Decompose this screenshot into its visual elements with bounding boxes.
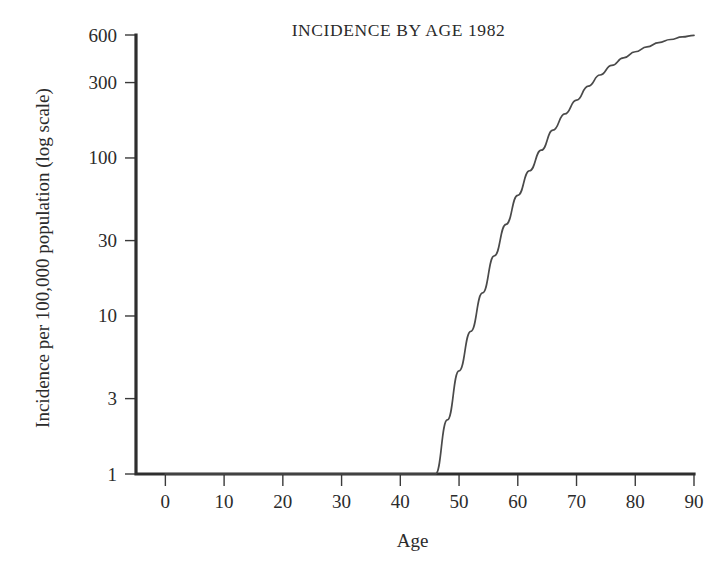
x-tick-label: 20 [273, 491, 292, 512]
x-tick-label: 90 [685, 491, 704, 512]
y-tick-label: 600 [89, 25, 118, 46]
chart-figure: INCIDENCE BY AGE 1982 Incidence per 100,… [0, 0, 725, 579]
x-tick-label: 70 [567, 491, 586, 512]
x-tick-marks [165, 474, 694, 486]
incidence-curve [165, 35, 694, 474]
x-tick-label: 0 [161, 491, 171, 512]
x-tick-labels: 0102030405060708090 [161, 491, 704, 512]
x-tick-label: 10 [215, 491, 234, 512]
x-tick-label: 50 [450, 491, 469, 512]
y-tick-marks [125, 35, 136, 474]
y-tick-label: 3 [108, 388, 118, 409]
x-tick-label: 60 [508, 491, 527, 512]
y-tick-label: 10 [98, 305, 117, 326]
y-tick-label: 1 [108, 464, 118, 485]
y-tick-label: 100 [89, 147, 118, 168]
x-tick-label: 80 [626, 491, 645, 512]
y-tick-labels: 131030100300600 [89, 25, 118, 485]
x-tick-label: 30 [332, 491, 351, 512]
axis-spines [136, 35, 694, 474]
x-tick-label: 40 [391, 491, 410, 512]
y-tick-label: 30 [98, 230, 117, 251]
plot-area: 131030100300600 0102030405060708090 [0, 0, 725, 579]
y-tick-label: 300 [89, 72, 118, 93]
